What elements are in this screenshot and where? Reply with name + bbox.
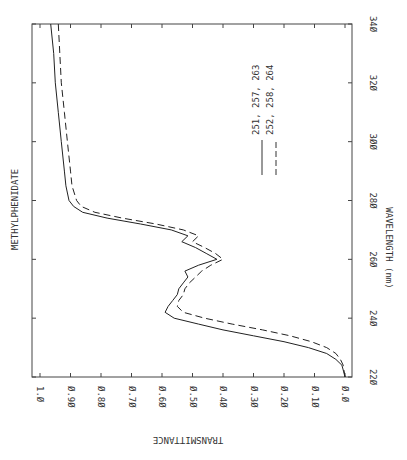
legend: 251, 257, 263252, 258, 264 [251,65,276,175]
w-tick-label: 22Ø [368,369,378,386]
axis-ticks [32,24,352,377]
w-tick-label: 34Ø [368,16,378,33]
spectrum-curves [51,24,345,377]
t-tick-label: Ø.4Ø [218,386,228,408]
plot-frame [32,24,352,377]
x-axis-label: WAVELENGTH (nm) [384,207,394,288]
t-tick-label: Ø.9Ø [66,386,76,408]
w-tick-label: 28Ø [368,192,378,209]
w-tick-label: 26Ø [368,251,378,268]
t-tick-label: Ø.3Ø [249,386,259,408]
chart-title: METHYLPHENIDATE [10,169,20,250]
t-tick-label: Ø.1Ø [310,386,320,408]
uv-spectrum-chart: 1.ØØ.9ØØ.8ØØ.7ØØ.6ØØ.5ØØ.4ØØ.3ØØ.2ØØ.1ØØ… [0,0,407,460]
t-tick-label: 1.Ø [35,386,45,403]
t-tick-label: Ø.Ø [340,386,350,403]
t-tick-label: Ø.5Ø [188,386,198,408]
w-tick-label: 3ØØ [368,134,378,151]
wavelength-tick-labels: 22Ø24Ø26Ø28Ø3ØØ32Ø34Ø [368,16,378,386]
w-tick-label: 24Ø [368,310,378,327]
t-tick-label: Ø.8Ø [96,386,106,408]
dashed-curve [58,24,345,377]
y-axis-label: TRANSMITTANCE [153,435,223,445]
solid-curve [51,24,345,377]
t-tick-label: Ø.2Ø [279,386,289,408]
w-tick-label: 32Ø [368,75,378,92]
legend-label: 251, 257, 263 [251,65,261,135]
transmittance-tick-labels: 1.ØØ.9ØØ.8ØØ.7ØØ.6ØØ.5ØØ.4ØØ.3ØØ.2ØØ.1ØØ… [35,386,350,408]
t-tick-label: Ø.7Ø [127,386,137,408]
t-tick-label: Ø.6Ø [157,386,167,408]
legend-label: 252, 258, 264 [265,65,275,135]
